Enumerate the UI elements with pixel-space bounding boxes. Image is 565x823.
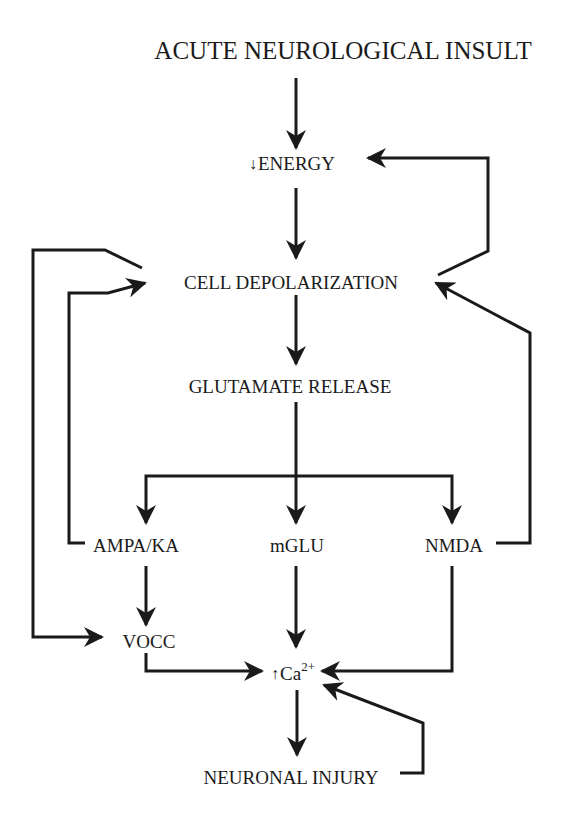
down-arrow-icon: ↓: [249, 156, 257, 172]
node-energy: ↓ENERGY: [249, 154, 335, 173]
node-vocc: VOCC: [123, 632, 176, 651]
node-mglu: mGLU: [270, 536, 324, 555]
node-energy-label: ENERGY: [258, 153, 335, 174]
excitotoxicity-flow-diagram: ACUTE NEUROLOGICAL INSULT ↓ENERGY CELL D…: [0, 0, 565, 823]
edge-depolarization-energy-feedback: [368, 158, 488, 275]
node-calcium-label: Ca: [280, 663, 301, 684]
edge-glutamate-nmda: [296, 476, 452, 523]
node-acute-neurological-insult: ACUTE NEUROLOGICAL INSULT: [154, 38, 531, 63]
edge-injury-calcium-feedback: [324, 685, 423, 773]
edge-glutamate-ampa: [146, 476, 296, 523]
node-glutamate-release: GLUTAMATE RELEASE: [189, 377, 392, 396]
edge-nmda-calcium: [322, 566, 452, 671]
node-cell-depolarization: CELL DEPOLARIZATION: [184, 273, 398, 292]
node-nmda: NMDA: [425, 536, 483, 555]
edge-ampa-depolarization-feedback: [69, 283, 145, 543]
node-neuronal-injury: NEURONAL INJURY: [203, 768, 378, 787]
node-calcium-charge: 2+: [301, 659, 315, 674]
edge-nmda-depolarization-feedback: [436, 283, 530, 543]
up-arrow-icon: ↑: [271, 666, 279, 682]
node-calcium: ↑Ca2+: [271, 664, 315, 683]
node-ampa-ka: AMPA/KA: [93, 536, 179, 555]
edge-vocc-calcium: [146, 653, 262, 671]
connector-arrows: [0, 0, 565, 823]
edge-depolarization-vocc: [33, 250, 142, 637]
